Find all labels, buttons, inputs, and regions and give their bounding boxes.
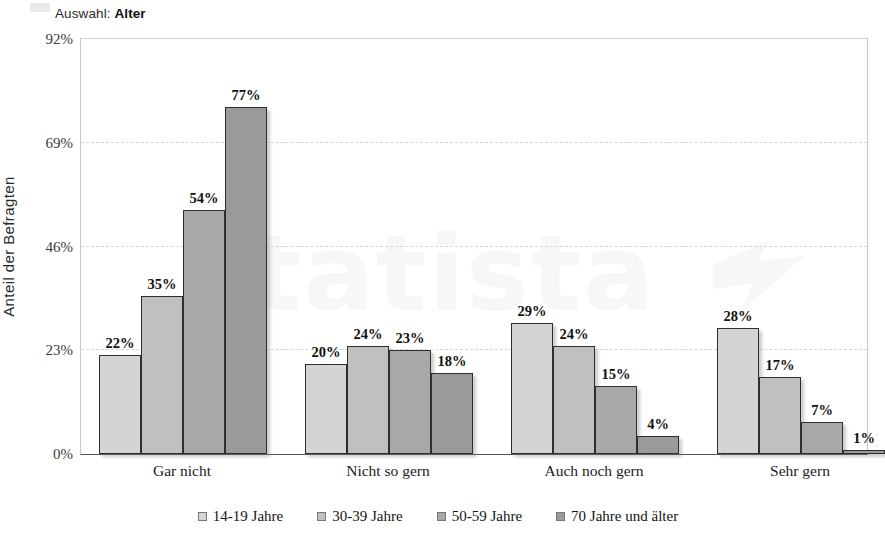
bar-group: 29%24%15%4% [511, 39, 679, 454]
legend-label: 14-19 Jahre [213, 508, 283, 525]
legend-label: 30-39 Jahre [332, 508, 402, 525]
bar-value-label: 77% [232, 87, 261, 104]
y-axis-tick-label: 69% [3, 134, 73, 151]
bar-value-label: 35% [148, 276, 177, 293]
legend-swatch-icon [556, 512, 565, 521]
bar-group: 20%24%23%18% [305, 39, 473, 454]
x-axis-category-label: Gar nicht [153, 462, 211, 480]
bar[interactable] [305, 364, 347, 454]
bar-value-label: 29% [518, 303, 547, 320]
bar-value-label: 28% [724, 308, 753, 325]
selection-header-text: Auswahl: Alter [55, 6, 146, 21]
bar-value-label: 54% [190, 190, 219, 207]
bar[interactable] [431, 373, 473, 454]
bar[interactable] [183, 210, 225, 454]
bar[interactable] [843, 450, 885, 455]
bar[interactable] [717, 328, 759, 454]
legend-item[interactable]: 14-19 Jahre [198, 508, 283, 525]
y-axis-tick-label: 92% [3, 31, 73, 48]
bar[interactable] [99, 355, 141, 454]
selection-value-label: Alter [114, 6, 145, 21]
header-decoration [30, 3, 50, 12]
y-axis-tick-label: 23% [3, 342, 73, 359]
bar-value-label: 7% [811, 402, 833, 419]
bar-value-label: 23% [396, 330, 425, 347]
bar[interactable] [553, 346, 595, 454]
bar-value-label: 22% [106, 335, 135, 352]
legend-swatch-icon [198, 512, 207, 521]
bar[interactable] [759, 377, 801, 454]
bar[interactable] [801, 422, 843, 454]
x-axis-category-label: Auch noch gern [545, 462, 644, 480]
bar-value-label: 17% [766, 357, 795, 374]
x-axis-category-label: Nicht so gern [346, 462, 430, 480]
bar-value-label: 20% [312, 344, 341, 361]
bar-value-label: 24% [354, 326, 383, 343]
bar-group: 28%17%7%1% [717, 39, 885, 454]
legend-item[interactable]: 30-39 Jahre [317, 508, 402, 525]
y-axis-tick-label: 46% [3, 238, 73, 255]
bar[interactable] [389, 350, 431, 454]
x-axis-category-label: Sehr gern [770, 462, 830, 480]
bar[interactable] [595, 386, 637, 454]
legend-label: 70 Jahre und älter [571, 508, 678, 525]
selection-prefix-label: Auswahl: [55, 6, 111, 21]
bar[interactable] [637, 436, 679, 454]
bar[interactable] [347, 346, 389, 454]
legend-swatch-icon [317, 512, 326, 521]
chart-legend: 14-19 Jahre30-39 Jahre50-59 Jahre70 Jahr… [0, 508, 876, 525]
bar[interactable] [141, 296, 183, 454]
bar-value-label: 24% [560, 326, 589, 343]
bar-groups: 22%35%54%77%20%24%23%18%29%24%15%4%28%17… [81, 39, 867, 454]
legend-label: 50-59 Jahre [452, 508, 522, 525]
selection-header: Auswahl: Alter [0, 0, 876, 26]
y-axis-tick-label: 0% [3, 446, 73, 463]
legend-item[interactable]: 70 Jahre und älter [556, 508, 678, 525]
bar-group: 22%35%54%77% [99, 39, 267, 454]
chart-plot-area: tatista 0%23%46%69%92% 22%35%54%77%20%24… [80, 38, 868, 455]
legend-item[interactable]: 50-59 Jahre [437, 508, 522, 525]
bar[interactable] [511, 323, 553, 454]
legend-swatch-icon [437, 512, 446, 521]
bar-value-label: 1% [853, 430, 875, 447]
bar-value-label: 18% [438, 353, 467, 370]
bar-value-label: 4% [647, 416, 669, 433]
bar-value-label: 15% [602, 366, 631, 383]
bar[interactable] [225, 107, 267, 454]
